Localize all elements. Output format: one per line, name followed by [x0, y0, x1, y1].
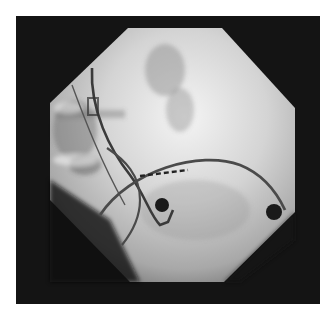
- fluoroscopy-image: [0, 0, 335, 318]
- round-marker-right: [266, 204, 282, 220]
- round-marker-center: [155, 198, 169, 212]
